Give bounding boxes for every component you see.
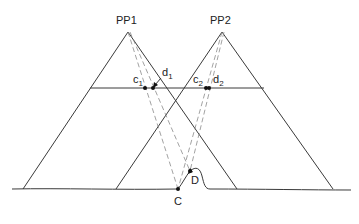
pp2-right-edge <box>222 32 333 189</box>
c1-point <box>143 86 147 90</box>
pp2-label: PP2 <box>210 14 231 26</box>
c1-label: c1 <box>133 73 144 88</box>
ray-pp2-to-D <box>190 32 224 171</box>
d2-label: d2 <box>213 73 224 88</box>
d1-point <box>151 86 155 90</box>
pp1-label: PP1 <box>116 14 137 26</box>
pp1-right-edge <box>128 32 237 189</box>
parallax-diagram: PP1 PP2 c1 d1 c2 d2 C D <box>0 0 359 224</box>
ray-pp1-to-D <box>130 32 190 171</box>
d2-point <box>207 86 211 90</box>
ground-line <box>12 168 351 190</box>
d1-label: d1 <box>162 66 173 81</box>
pp2-left-edge <box>116 32 222 189</box>
D-label: D <box>191 174 199 186</box>
ray-pp1-to-C <box>128 32 178 189</box>
C-label: C <box>174 195 182 207</box>
ray-pp2-to-C <box>178 32 222 189</box>
c2-label: c2 <box>193 73 204 88</box>
pp1-left-edge <box>23 32 128 189</box>
C-point <box>176 187 180 191</box>
